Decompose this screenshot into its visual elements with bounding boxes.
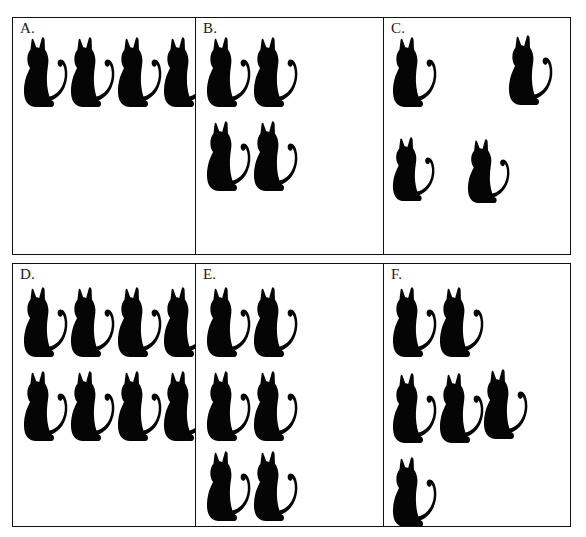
cat-silhouette-icon — [206, 370, 252, 442]
panel-c[interactable]: C. — [383, 18, 570, 254]
cat-silhouette-icon — [206, 450, 252, 522]
cat-silhouette-icon — [508, 34, 554, 106]
cat-silhouette-icon — [253, 36, 299, 108]
cat-silhouette-icon — [117, 286, 163, 358]
cat-silhouette-icon — [392, 372, 438, 444]
cat-group-b — [196, 18, 383, 254]
cat-silhouette-icon — [23, 286, 69, 358]
panel-f[interactable]: F. — [383, 264, 570, 526]
cat-silhouette-icon — [392, 36, 438, 108]
cat-silhouette-icon — [253, 450, 299, 522]
worksheet-sheet: A. B. C. D. E. F. — [0, 0, 586, 537]
cat-silhouette-icon — [163, 286, 195, 358]
cat-group-f — [384, 264, 570, 526]
cat-silhouette-icon — [23, 36, 69, 108]
cat-silhouette-icon — [163, 370, 195, 442]
panel-a[interactable]: A. — [13, 18, 195, 254]
panel-b[interactable]: B. — [195, 18, 383, 254]
cat-group-e — [196, 264, 383, 526]
cat-group-c — [384, 18, 570, 254]
panel-row-bottom: D. E. F. — [12, 263, 571, 527]
cat-silhouette-icon — [392, 286, 438, 358]
cat-silhouette-icon — [206, 36, 252, 108]
panel-d[interactable]: D. — [13, 264, 195, 526]
cat-silhouette-icon — [253, 370, 299, 442]
panel-row-top: A. B. C. — [12, 17, 571, 255]
cat-silhouette-icon — [467, 138, 511, 204]
panel-e[interactable]: E. — [195, 264, 383, 526]
cat-group-d — [13, 264, 195, 526]
cat-silhouette-icon — [163, 36, 195, 108]
cat-silhouette-icon — [117, 370, 163, 442]
cat-silhouette-icon — [117, 36, 163, 108]
cat-silhouette-icon — [253, 286, 299, 358]
cat-group-a — [13, 18, 195, 254]
cat-silhouette-icon — [70, 370, 116, 442]
cat-silhouette-icon — [206, 120, 252, 192]
cat-silhouette-icon — [392, 136, 436, 202]
cat-silhouette-icon — [439, 286, 485, 358]
cat-silhouette-icon — [206, 286, 252, 358]
cat-silhouette-icon — [70, 286, 116, 358]
cat-silhouette-icon — [483, 368, 529, 440]
cat-silhouette-icon — [253, 120, 299, 192]
cat-silhouette-icon — [23, 370, 69, 442]
cat-silhouette-icon — [439, 372, 485, 444]
cat-silhouette-icon — [392, 456, 438, 526]
cat-silhouette-icon — [70, 36, 116, 108]
